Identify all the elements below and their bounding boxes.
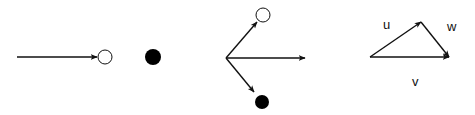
open-circle-particle [98,50,112,64]
label-v: v [412,74,419,89]
vector-diagram: u w v [0,0,475,115]
filled-circle-target [145,49,161,65]
panel-incoming-particle [17,49,161,65]
vector-u-arrow [370,22,421,57]
recoil-arrow-down [226,58,254,92]
label-u: u [383,17,390,32]
label-w: w [446,19,457,34]
panel-scattering [226,8,305,109]
open-circle-scattered [256,8,270,22]
vector-w-arrow [421,22,449,57]
filled-circle-recoil [255,95,269,109]
scattered-arrow-up [226,22,257,58]
panel-vector-triangle: u w v [370,17,457,89]
